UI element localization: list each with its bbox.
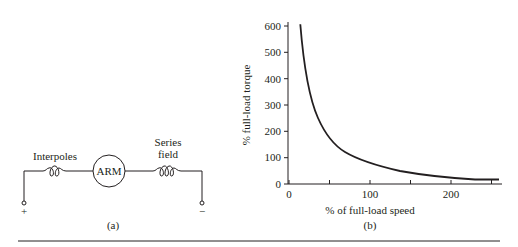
y-tick-label: 300 — [265, 99, 282, 111]
x-tick-label: 100 — [362, 188, 379, 200]
minus-sign: − — [199, 205, 205, 217]
plus-sign: + — [21, 205, 27, 217]
series-field-coil-icon — [153, 166, 181, 176]
armature-label: ARM — [96, 165, 121, 177]
torque-speed-chart: 600 500 400 300 200 100 0 0 100 200 % of… — [240, 20, 502, 232]
torque-speed-curve — [300, 24, 499, 179]
y-tick-label: 600 — [265, 20, 282, 32]
y-tick-label: 200 — [265, 125, 282, 137]
figure-canvas: Interpoles ARM Series field + − (a) 600 … — [0, 0, 518, 247]
interpoles-label: Interpoles — [33, 150, 77, 162]
series-field-label-line2: field — [158, 148, 179, 160]
caption-a: (a) — [107, 219, 120, 232]
y-tick-label: 500 — [265, 46, 282, 58]
y-tick-label: 0 — [276, 178, 282, 190]
y-axis-label: % full-load torque — [240, 65, 252, 146]
series-field-label-line1: Series — [155, 136, 182, 148]
y-ticks — [284, 26, 288, 184]
x-tick-label: 0 — [286, 188, 292, 200]
interpoles-coil-icon — [43, 166, 66, 176]
x-ticks — [289, 180, 492, 184]
x-axis-label: % of full-load speed — [325, 204, 415, 216]
y-tick-label: 100 — [265, 151, 282, 163]
caption-b: (b) — [364, 219, 377, 232]
y-tick-label: 400 — [265, 73, 282, 85]
x-tick-label: 200 — [443, 188, 460, 200]
series-motor-circuit — [22, 155, 204, 205]
